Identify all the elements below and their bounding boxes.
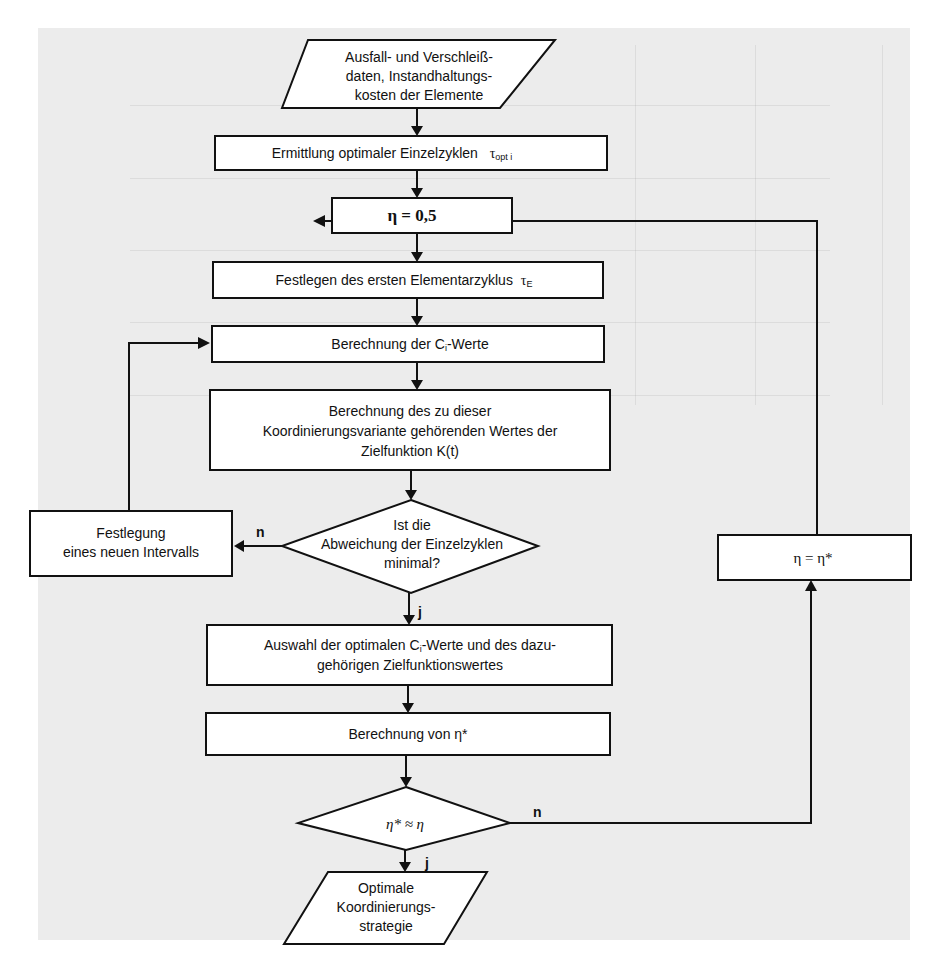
node-text: Auswahl der optimalen Ci-Werte und des d…: [264, 637, 556, 654]
node-new-interval: Festlegung eines neuen Intervalls: [30, 511, 232, 576]
node-optimal-single-cycles: Ermittlung optimaler Einzelzyklen τopt i: [215, 136, 607, 170]
node-text: Festlegung: [96, 525, 165, 541]
node-first-elementary-cycle: Festlegen des ersten Elementarzyklus τE: [213, 262, 603, 298]
node-text: Optimale: [358, 880, 414, 896]
decision-eta-converged: η* ≈ η: [298, 787, 510, 850]
node-text: Abweichung der Einzelzyklen: [321, 536, 503, 552]
node-text: Ausfall- und Verschleiß-: [345, 49, 493, 65]
node-text: Koordinierungs-: [337, 899, 436, 915]
node-objective-function: Berechnung des zu dieser Koordinierungsv…: [210, 390, 610, 470]
node-text: eines neuen Intervalls: [63, 544, 199, 560]
edge-label-no: n: [256, 524, 265, 540]
node-text: η* ≈ η: [386, 816, 424, 832]
node-text: kosten der Elemente: [355, 87, 484, 103]
node-text: η = 0,5: [387, 206, 436, 225]
node-eta-init: η = 0,5: [332, 198, 512, 233]
node-compute-eta-star: Berechnung von η*: [206, 713, 610, 755]
node-output-strategy: Optimale Koordinierungs- strategie: [284, 872, 487, 944]
node-text: Festlegen des ersten Elementarzyklus τE: [276, 272, 533, 289]
node-text: Berechnung der Ci-Werte: [331, 336, 489, 353]
node-text: Ermittlung optimaler Einzelzyklen τopt i: [272, 145, 513, 162]
node-text: daten, Instandhaltungs-: [346, 68, 493, 84]
node-select-optimal-ci: Auswahl der optimalen Ci-Werte und des d…: [207, 625, 612, 685]
node-text: Ist die: [393, 517, 431, 533]
flowchart: Ausfall- und Verschleiß- daten, Instandh…: [0, 0, 937, 967]
node-ci-values: Berechnung der Ci-Werte: [212, 326, 604, 362]
node-text: gehörigen Zielfunktionswertes: [317, 657, 503, 673]
decision-deviation-minimal: Ist die Abweichung der Einzelzyklen mini…: [282, 500, 538, 593]
node-eta-update: η = η*: [718, 535, 911, 580]
node-text: η = η*: [793, 550, 832, 566]
node-text: Berechnung von η*: [348, 726, 468, 742]
edge-label-yes: j: [417, 604, 422, 620]
node-input-data: Ausfall- und Verschleiß- daten, Instandh…: [282, 40, 555, 108]
node-text: Koordinierungsvariante gehörenden Wertes…: [263, 423, 558, 439]
node-text: strategie: [359, 918, 413, 934]
edge-label-yes: j: [424, 855, 429, 871]
node-text: minimal?: [384, 555, 440, 571]
node-text: Zielfunktion K(t): [361, 443, 459, 459]
node-text: Berechnung des zu dieser: [329, 403, 492, 419]
edge-label-no: n: [533, 804, 542, 820]
